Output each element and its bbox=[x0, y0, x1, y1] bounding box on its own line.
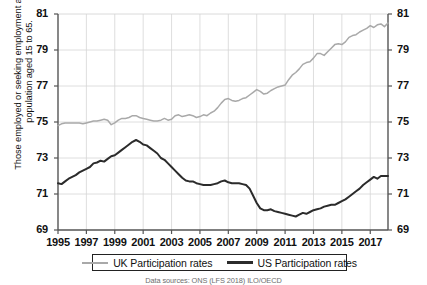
legend-line-swatch-us bbox=[227, 261, 253, 264]
legend-label-us: US Participation rates bbox=[258, 257, 357, 269]
source-note: Data sources: ONS (LFS 2018) ILO/OECD bbox=[0, 276, 427, 285]
legend-label-uk: UK Participation rates bbox=[113, 257, 212, 269]
y-axis-right-tick-label: 73 bbox=[397, 151, 419, 163]
y-axis-right-tick-label: 81 bbox=[397, 7, 419, 19]
y-axis-left-tick-label: 75 bbox=[26, 115, 48, 127]
legend-item-us: US Participation rates bbox=[227, 257, 357, 269]
y-axis-right-tick-label: 69 bbox=[397, 223, 419, 235]
x-axis-tick-label: 2017 bbox=[353, 236, 387, 248]
legend-line-swatch-uk bbox=[82, 262, 108, 264]
chart-legend: UK Participation rates US Participation … bbox=[92, 254, 347, 271]
y-axis-left-tick-label: 69 bbox=[26, 223, 48, 235]
y-axis-right-tick-label: 71 bbox=[397, 187, 419, 199]
y-axis-left-tick-label: 73 bbox=[26, 151, 48, 163]
y-axis-right-tick-label: 75 bbox=[397, 115, 419, 127]
y-axis-right-tick-label: 77 bbox=[397, 79, 419, 91]
y-axis-left-tick-label: 81 bbox=[26, 7, 48, 19]
y-axis-left-tick-label: 71 bbox=[26, 187, 48, 199]
y-axis-right-tick-label: 79 bbox=[397, 43, 419, 55]
y-axis-left-tick-label: 77 bbox=[26, 79, 48, 91]
y-axis-left-tick-label: 79 bbox=[26, 43, 48, 55]
legend-item-uk: UK Participation rates bbox=[82, 257, 212, 269]
